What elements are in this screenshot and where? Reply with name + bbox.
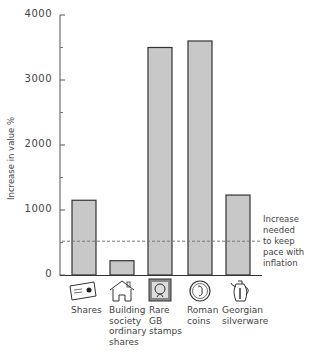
inflation-annotation: Increaseneededto keeppace withinflation — [263, 214, 304, 269]
bar-4 — [226, 195, 250, 275]
x-category-label: RareGBstamps — [149, 305, 182, 337]
share-certificate-icon — [70, 282, 96, 300]
x-category-label: Shares — [71, 305, 102, 316]
x-category-label: Romancoins — [187, 305, 218, 326]
house-icon — [110, 281, 134, 301]
x-category-label: Buildingsocietyordinaryshares — [109, 305, 147, 347]
stamp-icon — [149, 279, 171, 301]
x-category-label: Georgiansilverware — [222, 305, 268, 326]
bar-3 — [188, 41, 212, 275]
bar-0 — [72, 200, 96, 275]
coin-icon — [190, 281, 210, 301]
bar-1 — [110, 261, 134, 275]
coffee-pot-icon — [231, 281, 248, 301]
